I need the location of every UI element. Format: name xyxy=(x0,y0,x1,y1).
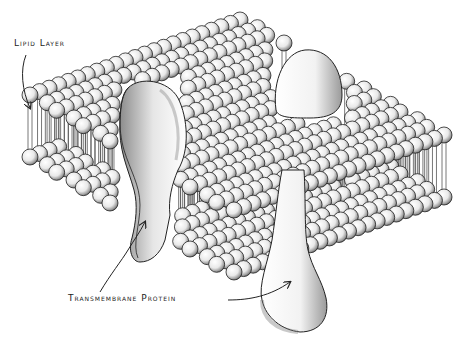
transmembrane-protein-label: Transmembrane Protein xyxy=(68,293,176,303)
lipid-layer-label: Lipid Layer xyxy=(14,38,65,48)
